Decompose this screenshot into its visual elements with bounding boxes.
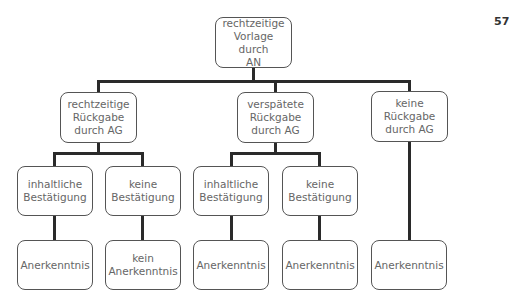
- node-l4-1: Anerkenntnis: [17, 240, 93, 290]
- node-root-label: rechtzeitige Vorlage durch AN: [218, 17, 289, 69]
- page-number: 57: [494, 15, 509, 28]
- connector-l2-right-to-l4-5: [408, 142, 411, 240]
- node-l4-5-label: Anerkenntnis: [374, 259, 443, 272]
- node-l3-1-label: inhaltliche Bestätigung: [23, 178, 86, 204]
- connector-l2-left-bar: [53, 152, 144, 155]
- node-l2-left: rechtzeitige Rückgabe durch AG: [60, 92, 137, 143]
- connector-to-l3-1: [53, 152, 56, 166]
- node-l2-mid: verspätete Rückgabe durch AG: [237, 92, 314, 143]
- node-l2-mid-label: verspätete Rückgabe durch AG: [247, 98, 304, 137]
- connector-l3-2-to-l4-2: [141, 215, 144, 240]
- node-l3-4-label: keine Bestätigung: [288, 178, 351, 204]
- node-l3-2-label: keine Bestätigung: [111, 178, 174, 204]
- node-l3-3: inhaltliche Bestätigung: [193, 166, 269, 216]
- node-l4-3: Anerkenntnis: [193, 240, 269, 290]
- connector-to-l3-2: [141, 152, 144, 166]
- node-l4-4: Anerkenntnis: [282, 240, 358, 290]
- node-l4-1-label: Anerkenntnis: [20, 259, 89, 272]
- node-l2-right: keine Rückgabe durch AG: [371, 91, 448, 142]
- connector-root-down: [252, 67, 255, 81]
- node-l2-left-label: rechtzeitige Rückgabe durch AG: [67, 98, 129, 137]
- connector-to-l2-mid: [274, 80, 277, 92]
- connector-l2-mid-bar: [230, 152, 321, 155]
- connector-to-l3-4: [318, 152, 321, 166]
- node-l3-3-label: inhaltliche Bestätigung: [199, 178, 262, 204]
- node-l3-4: keine Bestätigung: [282, 166, 358, 216]
- connector-to-l2-left: [97, 80, 100, 92]
- node-l3-2: keine Bestätigung: [105, 166, 181, 216]
- node-l4-4-label: Anerkenntnis: [285, 259, 354, 272]
- connector-l3-1-to-l4-1: [53, 215, 56, 240]
- connector-to-l3-3: [230, 152, 233, 166]
- node-l3-1: inhaltliche Bestätigung: [17, 166, 93, 216]
- connector-l3-4-to-l4-4: [318, 215, 321, 240]
- node-l4-2: kein Anerkenntnis: [105, 240, 181, 290]
- node-root: rechtzeitige Vorlage durch AN: [215, 17, 292, 68]
- connector-root-bar: [97, 80, 411, 83]
- node-l4-3-label: Anerkenntnis: [196, 259, 265, 272]
- node-l2-right-label: keine Rückgabe durch AG: [384, 97, 436, 136]
- connector-l3-3-to-l4-3: [230, 215, 233, 240]
- node-l4-2-label: kein Anerkenntnis: [108, 252, 177, 278]
- node-l4-5: Anerkenntnis: [371, 240, 447, 290]
